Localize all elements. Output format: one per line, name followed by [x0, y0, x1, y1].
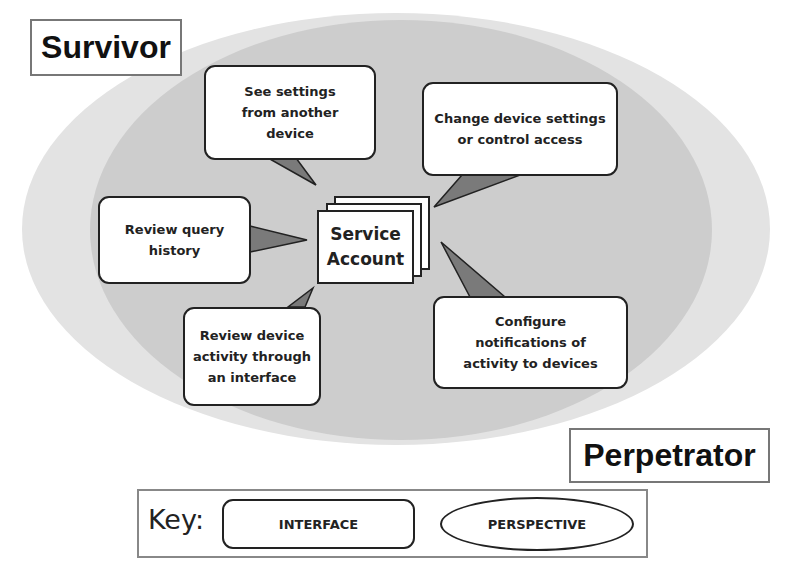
service-account-label: Service Account — [317, 210, 414, 284]
legend-title: Key: — [148, 504, 204, 535]
interface-change-settings: Change device settings or control access — [422, 82, 618, 176]
legend-interface-shape: INTERFACE — [222, 499, 415, 549]
interface-see-settings: See settings from another device — [204, 65, 376, 160]
perpetrator-label: Perpetrator — [569, 428, 770, 483]
interface-label: Configure notifications of activity to d… — [463, 311, 597, 374]
diagram: Survivor See settings from another devic… — [0, 0, 792, 582]
interface-query-history: Review query history — [98, 196, 251, 284]
interface-label: Review device activity through an interf… — [193, 325, 311, 388]
interface-label: Change device settings or control access — [434, 108, 605, 150]
interface-label: Review query history — [125, 219, 224, 261]
interface-label: See settings from another device — [242, 81, 339, 144]
legend-perspective-shape: PERSPECTIVE — [440, 497, 634, 551]
interface-notifications: Configure notifications of activity to d… — [433, 296, 628, 389]
legend-interface-label: INTERFACE — [279, 517, 358, 532]
survivor-label: Survivor — [30, 19, 182, 76]
legend-perspective-label: PERSPECTIVE — [488, 517, 586, 532]
perpetrator-text: Perpetrator — [583, 437, 756, 474]
interface-device-activity: Review device activity through an interf… — [183, 307, 321, 406]
survivor-text: Survivor — [41, 29, 171, 66]
